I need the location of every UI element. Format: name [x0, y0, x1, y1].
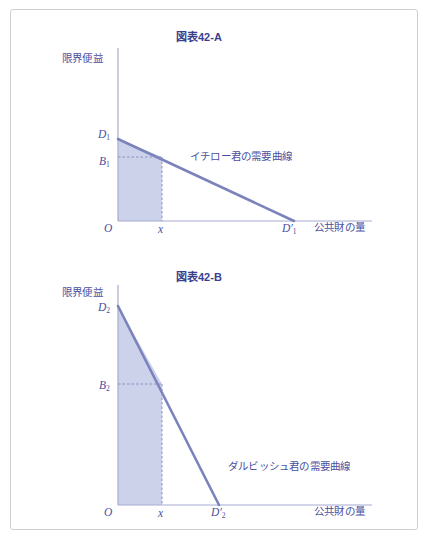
- chart-b-x-intercept-label: D′2: [211, 506, 226, 520]
- chart-b-quantity-tick-label: x: [158, 507, 163, 519]
- chart-a-x-axis-label: 公共財の量: [314, 219, 365, 234]
- chart-b-x-axis-label: 公共財の量: [314, 503, 365, 518]
- chart-b-curve-label: ダルビッシュ君の需要曲線: [228, 458, 350, 473]
- chart-a-x-intercept-label: D′1: [282, 222, 297, 236]
- chart-b-intercept-label: D2: [98, 301, 110, 315]
- chart-a-intercept-label: D1: [98, 128, 110, 142]
- chart-b-y-axis-label: 限界便益: [62, 284, 103, 299]
- figure-page: 図表42-A 限界便益 公共財の量 イチロー君の需要曲線 D1 B1 O x D…: [0, 0, 429, 542]
- chart-a-quantity-tick-label: x: [158, 223, 163, 235]
- chart-a-benefit-label: B1: [99, 155, 110, 169]
- chart-a-y-axis-label: 限界便益: [62, 50, 103, 65]
- chart-b-shaded-area: [118, 306, 162, 505]
- chart-a-shaded-area: [118, 139, 162, 221]
- chart-a-curve-label: イチロー君の需要曲線: [190, 148, 292, 163]
- chart-b-benefit-label: B2: [99, 379, 110, 393]
- chart-b-origin-label: O: [104, 506, 112, 518]
- chart-b-title: 図表42-B: [176, 268, 222, 284]
- chart-a-origin-label: O: [104, 222, 112, 234]
